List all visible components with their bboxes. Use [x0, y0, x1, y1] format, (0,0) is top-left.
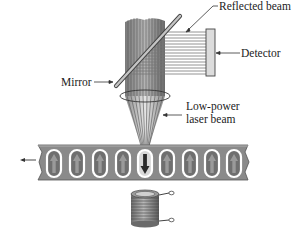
detector-label: Detector	[241, 47, 281, 60]
low-power-label-line1: Low-power	[186, 100, 240, 113]
domain-2	[70, 150, 84, 177]
domain-3	[93, 150, 107, 177]
domain-4	[116, 150, 130, 177]
domain-5	[138, 150, 152, 177]
domain-1	[47, 150, 61, 177]
domain-9	[227, 150, 241, 177]
tape-motion-arrow-icon	[20, 158, 36, 162]
magneto-optical-read-diagram	[0, 0, 297, 242]
domain-8	[205, 150, 219, 177]
domain-7	[183, 150, 197, 177]
domain-6	[160, 150, 174, 177]
focused-beam-cone	[125, 96, 165, 146]
write-coil	[131, 190, 174, 228]
detector	[206, 29, 215, 76]
reflected-beam-label: Reflected beam	[219, 0, 291, 13]
magnetic-domains	[47, 150, 241, 177]
low-power-label-line2: laser beam	[186, 113, 236, 126]
mirror-label: Mirror	[61, 76, 92, 89]
